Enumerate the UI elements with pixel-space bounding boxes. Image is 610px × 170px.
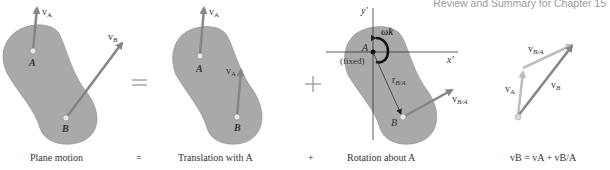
y-axis-label: y′ bbox=[360, 5, 368, 16]
point-a-label: A bbox=[361, 42, 369, 53]
point-b-marker bbox=[63, 115, 69, 121]
point-b-label: B bbox=[61, 123, 69, 134]
omega-label: ωk bbox=[381, 26, 393, 37]
point-b-label: B bbox=[391, 117, 397, 128]
point-a-label: A bbox=[28, 57, 36, 68]
rigid-body-shape bbox=[173, 27, 262, 145]
plus-operator bbox=[305, 76, 321, 92]
plane-motion-panel: A B vA vB bbox=[3, 6, 122, 144]
svg-text:vB: vB bbox=[108, 31, 118, 44]
fixed-label: (fixed) bbox=[340, 56, 365, 66]
translation-panel: A B vA vA bbox=[173, 6, 262, 144]
point-b-label: B bbox=[233, 122, 241, 133]
svg-text:vA: vA bbox=[42, 6, 52, 19]
rotation-panel: y′ x′ ωk A (fixed) rB/A B vB/A bbox=[326, 5, 468, 144]
svg-text:vA: vA bbox=[505, 83, 515, 96]
caption-plus: + bbox=[308, 152, 314, 163]
x-axis-label: x′ bbox=[446, 54, 454, 65]
svg-text:vB/A: vB/A bbox=[452, 93, 468, 106]
rigid-body-shape bbox=[3, 25, 97, 144]
vector-sum-panel: vB/A vA vB bbox=[505, 43, 572, 120]
caption-equation: vB = vA + vB/A bbox=[510, 152, 576, 163]
point-a-label: A bbox=[195, 63, 203, 74]
svg-text:vA: vA bbox=[209, 6, 219, 19]
caption-plane-motion: Plane motion bbox=[30, 152, 83, 163]
caption-equals: = bbox=[136, 152, 142, 163]
svg-text:vB/A: vB/A bbox=[528, 43, 544, 56]
point-a-marker bbox=[30, 48, 36, 54]
caption-translation: Translation with A bbox=[178, 152, 253, 163]
caption-rotation: Rotation about A bbox=[347, 152, 415, 163]
kinematics-diagram: A B vA vB A B vA vA y′ x′ ωk A bbox=[0, 0, 610, 170]
equals-operator bbox=[132, 80, 147, 85]
svg-text:vB: vB bbox=[551, 79, 561, 92]
